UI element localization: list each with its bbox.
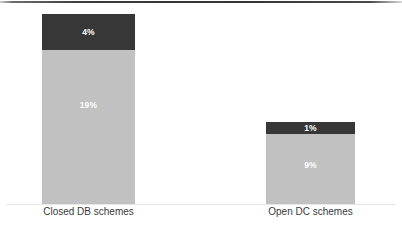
- stacked-bar-closed-db-schemes[interactable]: 4% 19%: [42, 14, 135, 204]
- plot-area: 4% 19% 1% 9% Closed DB schemes Open DC s…: [0, 0, 402, 242]
- x-axis-label-closed-db-schemes: Closed DB schemes: [42, 206, 135, 218]
- bar-group-open-dc-schemes[interactable]: 1% 9%: [266, 122, 355, 204]
- bar-segment-light-closed-db-schemes[interactable]: 19%: [42, 50, 135, 204]
- bar-segment-light-open-dc-schemes[interactable]: 9%: [266, 134, 355, 204]
- bar-segment-dark-closed-db-schemes[interactable]: 4%: [42, 14, 135, 50]
- stacked-bar-chart: 4% 19% 1% 9% Closed DB schemes Open DC s…: [0, 0, 402, 242]
- axis-baseline: [6, 204, 396, 205]
- stacked-bar-open-dc-schemes[interactable]: 1% 9%: [266, 122, 355, 204]
- bar-group-closed-db-schemes[interactable]: 4% 19%: [42, 14, 135, 204]
- bar-segment-value-label: 9%: [266, 161, 355, 170]
- x-axis-label-open-dc-schemes: Open DC schemes: [266, 206, 355, 218]
- bar-segment-value-label: 19%: [42, 101, 135, 110]
- bar-segment-value-label: 1%: [266, 124, 355, 133]
- bar-segment-dark-open-dc-schemes[interactable]: 1%: [266, 122, 355, 134]
- bar-segment-value-label: 4%: [42, 28, 135, 37]
